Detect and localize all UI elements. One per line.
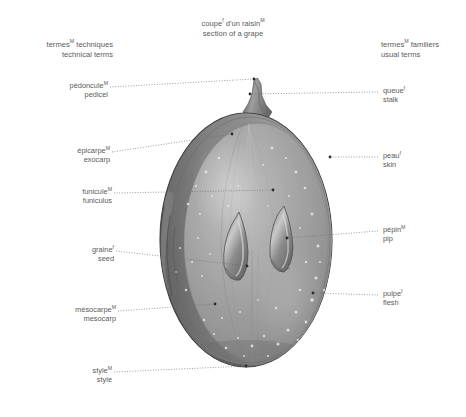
label-flesh[interactable]: pulpef flesh xyxy=(383,289,463,308)
header-technical-terms: termesM techniques technical terms xyxy=(0,40,113,60)
label-funiculus[interactable]: funiculeM funiculus xyxy=(0,187,112,206)
label-style-fr: styleM xyxy=(0,366,112,375)
label-seed-en: seed xyxy=(0,254,114,263)
leader-lines-right xyxy=(250,92,378,295)
pedicel-stem xyxy=(243,78,272,120)
label-mesocarp-en: mesocarp xyxy=(0,314,116,323)
label-style-en: style xyxy=(0,375,112,384)
seed-right xyxy=(270,206,293,272)
label-funiculus-fr: funiculeM xyxy=(0,187,112,196)
label-pedicel[interactable]: pédonculeM pedicel xyxy=(0,81,108,100)
page-title-fr: coupef d'un raisinM xyxy=(201,19,264,28)
label-stalk-en: stalk xyxy=(383,95,463,104)
header-usual-terms: termesM familiers usual terms xyxy=(381,40,466,60)
header-technical-terms-en: technical terms xyxy=(62,50,113,59)
label-stalk[interactable]: queuef stalk xyxy=(383,86,463,105)
leader-lines-left xyxy=(110,79,273,372)
label-seed[interactable]: grainef seed xyxy=(0,245,114,264)
label-funiculus-en: funiculus xyxy=(0,196,112,205)
grape-section-illustration xyxy=(0,0,466,417)
label-skin[interactable]: peauf skin xyxy=(383,151,463,170)
label-stalk-fr: queuef xyxy=(383,86,463,95)
seeds-group xyxy=(224,206,293,280)
illustration-page: coupef d'un raisinM section of a grape t… xyxy=(0,0,466,417)
label-mesocarp[interactable]: mésocarpeM mesocarp xyxy=(0,305,116,324)
page-title-en: section of a grape xyxy=(203,29,263,38)
label-exocarp-fr: épicarpeM xyxy=(0,146,110,155)
label-flesh-en: flesh xyxy=(383,298,463,307)
leader-anchor-dots xyxy=(214,78,332,368)
header-usual-terms-fr: termesM familiers xyxy=(381,40,439,49)
seed-left xyxy=(224,212,248,280)
header-technical-terms-fr: termesM techniques xyxy=(47,40,113,49)
label-pedicel-en: pedicel xyxy=(0,90,108,99)
label-skin-fr: peauf xyxy=(383,151,463,160)
label-mesocarp-fr: mésocarpeM xyxy=(0,305,116,314)
label-exocarp-en: exocarp xyxy=(0,155,110,164)
grape-body xyxy=(155,113,332,372)
label-flesh-fr: pulpef xyxy=(383,289,463,298)
label-pedicel-fr: pédonculeM xyxy=(0,81,108,90)
label-exocarp[interactable]: épicarpeM exocarp xyxy=(0,146,110,165)
page-title: coupef d'un raisinM section of a grape xyxy=(183,19,283,39)
header-usual-terms-en: usual terms xyxy=(381,50,420,59)
label-seed-fr: grainef xyxy=(0,245,114,254)
label-pip-en: pip xyxy=(383,234,463,243)
label-skin-en: skin xyxy=(383,160,463,169)
label-pip-fr: pépinM xyxy=(383,225,463,234)
label-style[interactable]: styleM style xyxy=(0,366,112,385)
label-pip[interactable]: pépinM pip xyxy=(383,225,463,244)
flesh-speckles xyxy=(175,147,325,357)
